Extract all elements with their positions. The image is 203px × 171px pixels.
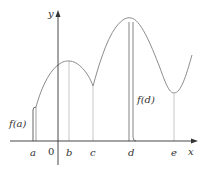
y-axis-arrow-icon	[56, 10, 61, 17]
tick-label-a: a	[30, 147, 36, 158]
function-graph: y x 0 a b c d e f(a) f(d)	[0, 0, 203, 171]
fd-bracket	[129, 22, 136, 141]
function-curve	[36, 18, 192, 107]
x-axis-label: x	[188, 146, 194, 157]
origin-label: 0	[48, 146, 54, 157]
tick-label-c: c	[90, 147, 96, 158]
y-axis-label: y	[47, 8, 54, 19]
fd-label: f(d)	[136, 94, 155, 105]
x-axis-arrow-icon	[191, 139, 198, 144]
tick-label-e: e	[171, 147, 177, 158]
guide-lines	[69, 61, 174, 141]
fa-bracket	[33, 107, 36, 141]
tick-label-d: d	[128, 147, 134, 158]
tick-label-b: b	[66, 147, 72, 158]
axes	[10, 10, 198, 165]
fa-label: f(a)	[8, 118, 27, 129]
